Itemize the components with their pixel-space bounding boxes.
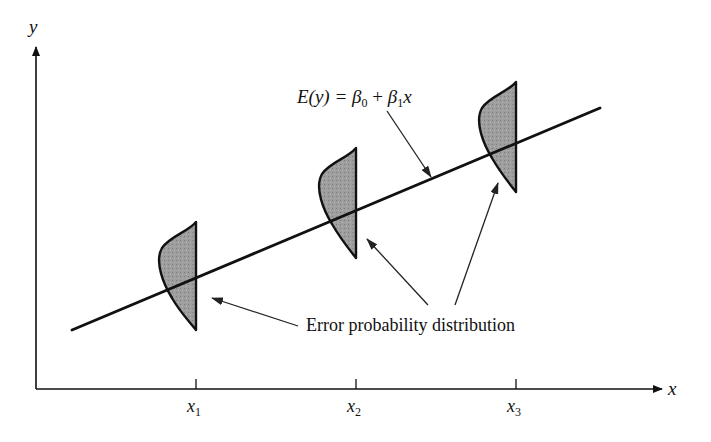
tick-label-x1: x1	[187, 396, 201, 420]
regression-diagram: y x x1 x2 x3 E(y) = β0 + β1x Error proba…	[0, 0, 711, 442]
regression-equation: E(y) = β0 + β1x	[297, 86, 412, 111]
error-distribution-1	[159, 222, 196, 330]
error-distribution-2	[319, 148, 356, 258]
tick-label-x3: x3	[507, 396, 521, 420]
tick-label-x2: x2	[347, 396, 361, 420]
error-distribution-3	[479, 82, 516, 192]
regression-line	[72, 108, 600, 330]
y-axis-label: y	[29, 16, 37, 38]
diagram-canvas	[0, 0, 711, 442]
x-axis-label: x	[668, 378, 676, 400]
x-ticks	[196, 379, 516, 389]
equation-pointer-arrow	[387, 111, 431, 177]
error-distribution-callout: Error probability distribution	[306, 315, 515, 336]
